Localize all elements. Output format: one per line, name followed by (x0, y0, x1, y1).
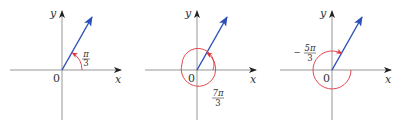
diagram-neg-5pi-over-3: y x 0 − 5π 3 (280, 7, 392, 120)
diagram-7pi-over-3: y x 0 7π 3 (145, 7, 257, 120)
angle-sign: − (293, 47, 300, 57)
angle-denominator: 3 (307, 53, 312, 63)
origin-label: 0 (188, 72, 195, 85)
y-axis-label: y (319, 7, 327, 20)
angle-label: − 5π 3 (293, 43, 316, 63)
y-axis-label: y (184, 7, 192, 20)
angle-denominator: 3 (215, 98, 220, 108)
diagram-pi-over-3: y x 0 π 3 (10, 7, 122, 120)
angle-arc (73, 53, 83, 70)
origin-label: 0 (53, 72, 60, 85)
angle-diagrams: y x 0 π 3 y x 0 7π 3 y x 0 − (0, 0, 406, 130)
angle-label: 7π 3 (212, 88, 224, 108)
x-axis-label: x (250, 73, 257, 86)
terminal-side-arrow (332, 17, 362, 70)
terminal-side-arrow (197, 17, 227, 70)
angle-numerator: 5π (305, 43, 316, 53)
origin-label: 0 (323, 72, 330, 85)
x-axis-label: x (385, 73, 392, 86)
angle-numerator: 7π (213, 88, 224, 98)
y-axis-label: y (49, 7, 57, 20)
angle-label: π 3 (82, 49, 90, 68)
x-axis-label: x (115, 73, 122, 86)
angle-denominator: 3 (83, 58, 88, 68)
